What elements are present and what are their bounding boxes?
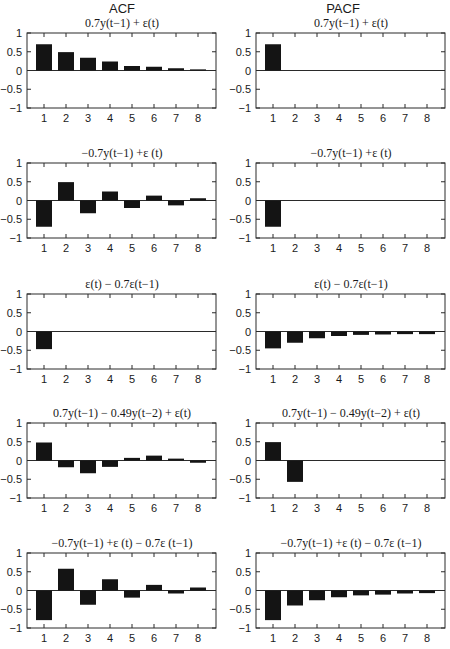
y-tick-label: −1 [238, 622, 251, 634]
x-tick-label: 1 [270, 632, 276, 644]
bar-lag-1 [265, 591, 281, 621]
x-tick-label: 4 [336, 632, 342, 644]
bar-lag-4 [331, 591, 347, 598]
x-tick-label: 5 [358, 632, 364, 644]
y-tick-label: 0 [245, 585, 251, 597]
chart-panel-pacf-5: −0.7y(t−1) +ε (t) − 0.7ε (t−1)10.50−0.5−… [0, 0, 221, 130]
bar-lag-6 [375, 591, 391, 595]
y-tick-label: −0.5 [229, 603, 251, 615]
bar-lag-5 [353, 591, 369, 596]
x-tick-label: 7 [402, 632, 408, 644]
y-tick-label: 0.5 [236, 566, 251, 578]
bar-lag-8 [419, 591, 435, 594]
bar-lag-3 [309, 591, 325, 601]
bar-lag-2 [287, 591, 303, 606]
x-tick-label: 6 [380, 632, 386, 644]
bar-lag-7 [397, 591, 413, 594]
x-tick-label: 2 [292, 632, 298, 644]
x-tick-label: 8 [424, 632, 430, 644]
x-tick-label: 3 [314, 632, 320, 644]
y-tick-label: 1 [245, 547, 251, 559]
